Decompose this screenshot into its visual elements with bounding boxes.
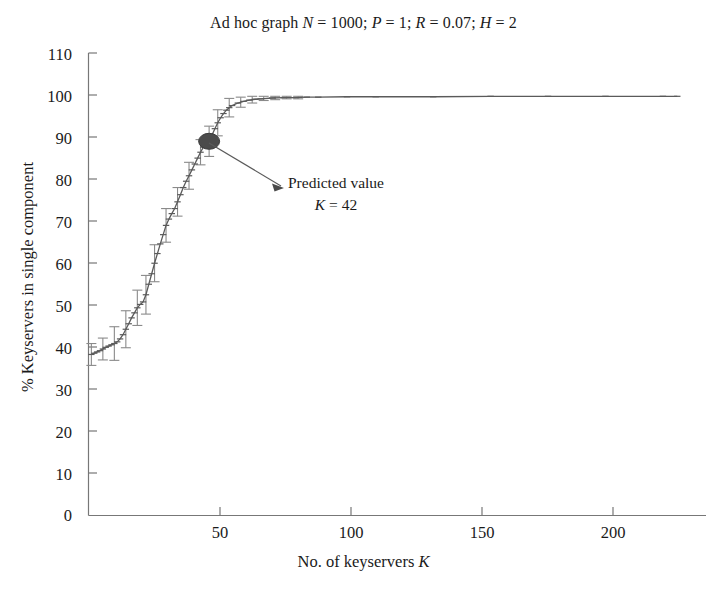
y-axis-ticks (89, 53, 98, 473)
annotation-arrow (209, 143, 284, 192)
data-point-markers (88, 96, 680, 354)
error-bars-group (86, 96, 303, 365)
plot-canvas (0, 0, 727, 591)
data-line (91, 96, 677, 354)
axis-spines (89, 53, 707, 516)
x-axis-ticks (220, 507, 613, 516)
figure-chart: Ad hoc graph N = 1000; P = 1; R = 0.07; … (0, 0, 727, 591)
